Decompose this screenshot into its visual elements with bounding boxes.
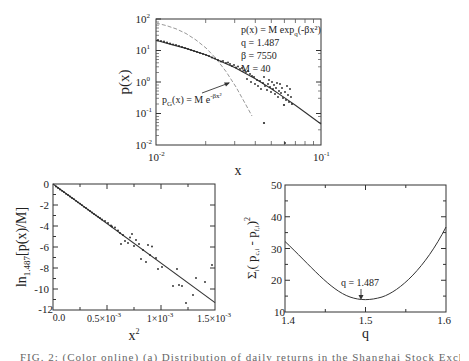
top-x-axis-label: x xyxy=(235,163,242,178)
svg-text:-12: -12 xyxy=(38,303,53,315)
br-ticks xyxy=(285,185,446,312)
svg-text:0: 0 xyxy=(44,178,50,190)
br-y-axis-label: Σi( pc,i - pf,i)2 xyxy=(243,217,261,279)
gaussian-label: pG(x) = M e-βx² xyxy=(162,92,222,108)
top-ytick-label: 101 xyxy=(136,43,151,56)
br-y-tick-labels: 50 40 30 20 10 xyxy=(271,179,286,318)
svg-text:-6: -6 xyxy=(40,241,50,253)
svg-text:30: 30 xyxy=(271,243,283,255)
bl-y-axis-label: ln1.487[p(x)/M] xyxy=(14,207,32,287)
br-min-arrow xyxy=(359,289,364,300)
top-plot: 102 101 100 10-1 10-2 10-2 10-1 x p(x) p… xyxy=(116,12,330,178)
legend-q: q = 1.487 xyxy=(241,37,279,48)
top-xtick-label: 10-1 xyxy=(313,150,330,163)
legend-formula: p(x) = M expq(-βx²) xyxy=(241,24,321,38)
legend-beta: β = 7550 xyxy=(241,50,277,61)
svg-text:1×10-3: 1×10-3 xyxy=(147,311,174,324)
bl-y-tick-labels: 0 -2 -4 -6 -8 -10 -12 xyxy=(34,178,53,315)
svg-text:1.5×10-3: 1.5×10-3 xyxy=(197,311,231,324)
bottom-right-plot: 50 40 30 20 10 1.4 1.5 1.6 q Σi( pc,i - … xyxy=(243,179,451,341)
svg-text:-2: -2 xyxy=(40,199,49,211)
svg-text:-10: -10 xyxy=(34,283,49,295)
top-ytick-label: 10-1 xyxy=(135,106,152,119)
legend-m: M = 40 xyxy=(241,63,271,74)
svg-text:1.5: 1.5 xyxy=(359,314,373,326)
svg-text:0.5×10-3: 0.5×10-3 xyxy=(87,311,121,324)
svg-text:0.0: 0.0 xyxy=(53,312,66,323)
top-ytick-label: 100 xyxy=(136,75,151,88)
br-min-annotation: q = 1.487 xyxy=(341,277,379,288)
svg-text:20: 20 xyxy=(271,274,283,286)
top-ytick-label: 102 xyxy=(136,12,151,25)
bottom-left-plot: 0 -2 -4 -6 -8 -10 -12 0.0 0.5×10-3 1×10-… xyxy=(14,178,231,343)
br-x-axis-label: q xyxy=(362,326,369,341)
top-y-axis-label: p(x) xyxy=(116,70,133,95)
bl-plot-frame xyxy=(53,184,215,310)
top-legend: p(x) = M expq(-βx²) q = 1.487 β = 7550 M… xyxy=(241,24,321,74)
br-sum-squares-curve xyxy=(285,227,446,300)
svg-text:-8: -8 xyxy=(40,262,50,274)
top-ytick-label: 10-2 xyxy=(135,138,152,151)
bl-x-axis-label: x2 xyxy=(129,327,140,343)
bl-x-tick-labels: 0.0 0.5×10-3 1×10-3 1.5×10-3 xyxy=(53,311,232,324)
q-exponential-fit-curve xyxy=(156,40,321,124)
top-xtick-label: 10-2 xyxy=(148,150,165,163)
top-x-tick-labels: 10-2 10-1 xyxy=(148,150,330,163)
svg-text:1.4: 1.4 xyxy=(281,314,295,326)
figure-caption: FIG. 2: (Color online) (a) Distribution … xyxy=(20,351,460,361)
svg-text:1.6: 1.6 xyxy=(437,314,451,326)
top-y-tick-labels: 102 101 100 10-1 10-2 xyxy=(135,12,152,151)
top-y-minor-ticks xyxy=(156,22,321,136)
br-x-tick-labels: 1.4 1.5 1.6 xyxy=(281,314,451,326)
br-plot-frame xyxy=(285,185,446,312)
svg-text:-4: -4 xyxy=(40,220,50,232)
svg-text:40: 40 xyxy=(271,211,283,223)
svg-text:50: 50 xyxy=(271,179,283,191)
bl-ticks xyxy=(53,184,215,310)
